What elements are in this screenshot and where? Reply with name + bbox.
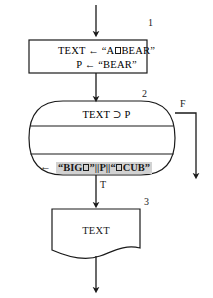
step-number-1: 1 xyxy=(148,18,153,28)
expr-part-3: CUB” xyxy=(123,162,150,173)
blank-space-box-icon xyxy=(83,164,89,172)
blank-space-box-icon xyxy=(115,47,121,55)
expr-part-1: “BIG xyxy=(58,162,83,173)
step2-body-expression: “BIG”||P||“CUB” xyxy=(56,158,152,174)
blank-space-box-icon xyxy=(116,164,122,172)
step3-text: TEXT xyxy=(0,226,192,237)
step2-expression-highlight: “BIG”||P||“CUB” xyxy=(56,162,152,174)
flowchart-canvas: 1 TEXT ← “ABEAR” P ← “BEAR” 2 TEXT ⊃ P ←… xyxy=(0,0,213,298)
step2-condition: TEXT ⊃ P xyxy=(0,108,213,120)
step1-line-2: P ← “BEAR” xyxy=(0,59,213,70)
expr-part-2: ”||P||“ xyxy=(90,162,116,173)
step1-line1-suffix: BEAR” xyxy=(121,45,155,56)
step2-assign-arrow: ← xyxy=(40,161,51,172)
step-number-2: 2 xyxy=(142,89,147,99)
edge-label-true: T xyxy=(100,180,106,190)
step-number-3: 3 xyxy=(144,197,149,207)
step1-line1-prefix: TEXT ← “A xyxy=(58,45,114,56)
step1-line-1: TEXT ← “ABEAR” xyxy=(0,45,213,56)
edge-false-branch xyxy=(175,113,196,176)
edge-label-false: F xyxy=(180,99,186,109)
